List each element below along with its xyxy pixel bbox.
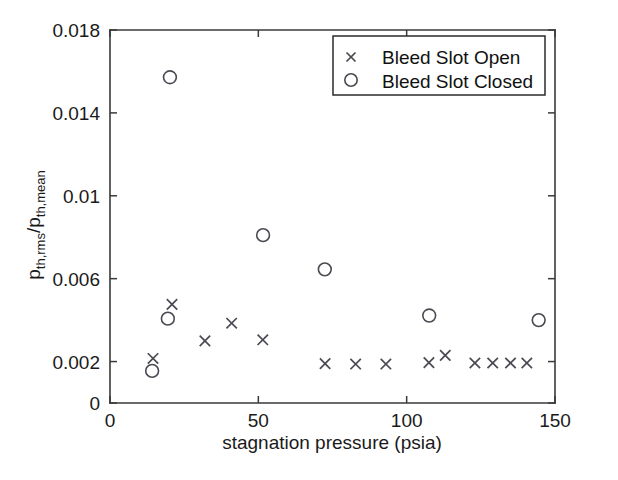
- data-point-cross: [488, 358, 498, 368]
- x-tick-label: 150: [539, 410, 571, 431]
- data-point-circle: [318, 263, 331, 276]
- data-point-cross: [258, 335, 268, 345]
- data-point-cross: [424, 357, 434, 367]
- y-axis-title: pth,rms/pth,mean: [23, 170, 48, 280]
- data-point-cross: [381, 359, 391, 369]
- y-axis-tick-labels: 00.0020.0060.010.0140.018: [52, 20, 100, 414]
- legend-label-open: Bleed Slot Open: [382, 47, 520, 68]
- data-point-circle: [161, 312, 174, 325]
- data-point-cross: [505, 358, 515, 368]
- data-point-circle: [146, 364, 159, 377]
- data-point-cross: [167, 299, 177, 309]
- y-tick-label: 0.018: [52, 20, 100, 41]
- x-tick-label: 0: [105, 410, 116, 431]
- chart-legend: Bleed Slot Open Bleed Slot Closed: [333, 36, 545, 95]
- data-point-circle: [423, 309, 436, 322]
- data-point-cross: [470, 358, 480, 368]
- data-point-cross: [440, 350, 450, 360]
- y-title-sub2: th,mean: [33, 170, 48, 217]
- y-title-sub1: th,rms: [33, 233, 48, 270]
- y-title-base1: p: [23, 269, 44, 280]
- series-bleed-slot-closed: [146, 71, 545, 377]
- series-bleed-slot-open: [148, 299, 532, 369]
- y-tick-label: 0.006: [52, 269, 100, 290]
- data-point-circle: [257, 229, 270, 242]
- y-tick-label: 0.002: [52, 352, 100, 373]
- legend-label-closed: Bleed Slot Closed: [382, 71, 533, 92]
- x-axis-title: stagnation pressure (psia): [222, 432, 442, 453]
- y-tick-label: 0.014: [52, 103, 100, 124]
- scatter-chart-figure: 00.0020.0060.010.0140.018 050100150 Blee…: [0, 0, 618, 480]
- data-point-cross: [522, 358, 532, 368]
- x-axis-tick-labels: 050100150: [105, 410, 571, 431]
- data-point-cross: [148, 353, 158, 363]
- y-title-slash: /p: [23, 217, 44, 233]
- plot-canvas: 00.0020.0060.010.0140.018 050100150 Blee…: [0, 0, 618, 480]
- data-point-cross: [350, 359, 360, 369]
- data-point-cross: [200, 336, 210, 346]
- svg-text:pth,rms/pth,mean: pth,rms/pth,mean: [23, 170, 48, 280]
- x-tick-label: 100: [391, 410, 423, 431]
- data-point-cross: [320, 358, 330, 368]
- y-tick-label: 0.01: [63, 186, 100, 207]
- x-tick-label: 50: [248, 410, 269, 431]
- y-tick-label: 0: [89, 393, 100, 414]
- data-point-circle: [532, 314, 545, 327]
- data-point-cross: [226, 318, 236, 328]
- data-point-circle: [164, 71, 177, 84]
